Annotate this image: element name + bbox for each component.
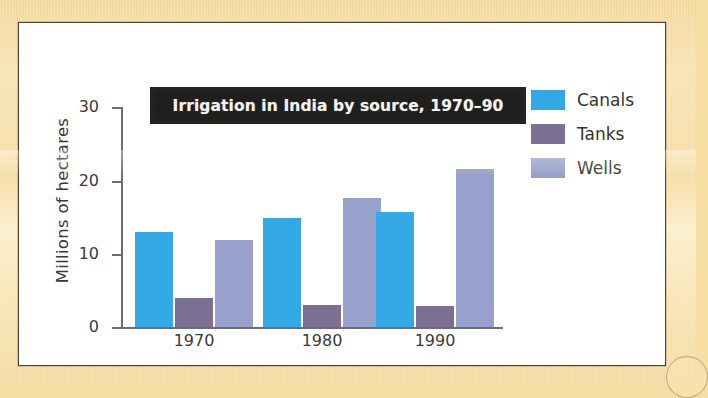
x-tick-label-1990: 1990 bbox=[376, 331, 494, 350]
bar-group-1980: 1980 bbox=[263, 105, 381, 327]
bar-group-1990: 1990 bbox=[376, 105, 494, 327]
legend-swatch-tanks-icon bbox=[531, 124, 565, 144]
bar-1980-canals[interactable] bbox=[263, 218, 301, 327]
bar-1970-tanks[interactable] bbox=[175, 298, 213, 327]
legend-item-wells[interactable]: Wells bbox=[531, 151, 634, 185]
bar-1970-canals[interactable] bbox=[135, 232, 173, 327]
y-tick-30: 30 bbox=[112, 107, 121, 109]
x-axis-line bbox=[121, 327, 503, 329]
plot-area: 30 20 10 0 1970 1980 bbox=[121, 103, 503, 329]
chart-card: Millions of hectares Irrigation in India… bbox=[18, 22, 666, 366]
legend-swatch-canals-icon bbox=[531, 90, 565, 110]
scan-artifact bbox=[666, 356, 708, 398]
legend-label-tanks: Tanks bbox=[577, 124, 624, 144]
y-axis-title: Millions of hectares bbox=[53, 96, 72, 306]
bar-group-1970: 1970 bbox=[135, 105, 253, 327]
bar-1990-tanks[interactable] bbox=[416, 306, 454, 327]
y-tick-0: 0 bbox=[112, 327, 121, 329]
y-tick-20: 20 bbox=[112, 181, 121, 183]
bar-1990-wells[interactable] bbox=[456, 169, 494, 327]
y-tick-10: 10 bbox=[112, 254, 121, 256]
bar-1980-tanks[interactable] bbox=[303, 305, 341, 327]
legend-label-canals: Canals bbox=[577, 90, 634, 110]
y-tick-label-30: 30 bbox=[79, 97, 99, 116]
y-axis-line bbox=[121, 107, 123, 329]
bar-1990-canals[interactable] bbox=[376, 212, 414, 327]
legend: Canals Tanks Wells bbox=[531, 83, 634, 185]
legend-swatch-wells-icon bbox=[531, 158, 565, 178]
legend-item-tanks[interactable]: Tanks bbox=[531, 117, 634, 151]
y-tick-label-0: 0 bbox=[89, 317, 99, 336]
y-tick-label-20: 20 bbox=[79, 171, 99, 190]
y-tick-label-10: 10 bbox=[79, 244, 99, 263]
legend-item-canals[interactable]: Canals bbox=[531, 83, 634, 117]
bar-1970-wells[interactable] bbox=[215, 240, 253, 327]
x-tick-label-1980: 1980 bbox=[263, 331, 381, 350]
legend-label-wells: Wells bbox=[577, 158, 622, 178]
x-tick-label-1970: 1970 bbox=[135, 331, 253, 350]
